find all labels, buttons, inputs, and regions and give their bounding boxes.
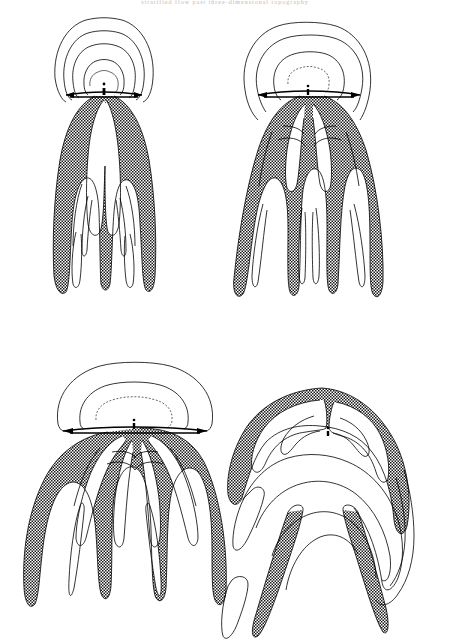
running-header: stratified flow past three-dimensional t… — [0, 0, 450, 6]
figure-contour-panels: stratified flow past three-dimensional t… — [0, 0, 450, 641]
figure-artwork — [0, 0, 450, 641]
panel-d-artwork — [0, 0, 450, 641]
